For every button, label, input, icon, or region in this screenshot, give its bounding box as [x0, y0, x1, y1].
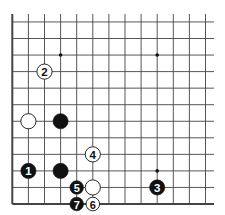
stone-disc	[21, 114, 36, 129]
white-stone-4: 4	[85, 147, 100, 162]
black-stone-5: 5	[70, 181, 84, 195]
black-stone	[53, 114, 68, 129]
stone-number-label: 1	[25, 165, 32, 177]
black-stone-1: 1	[21, 163, 36, 178]
stone-number-label: 6	[90, 199, 96, 211]
stone-number-label: 7	[74, 199, 80, 211]
stone-number-label: 4	[90, 149, 97, 161]
star-point	[59, 53, 63, 57]
black-stone-7: 7	[70, 197, 84, 211]
star-point	[155, 53, 159, 57]
black-stone-3: 3	[150, 180, 165, 195]
white-stone-2: 2	[37, 64, 52, 79]
white-stone	[21, 114, 36, 129]
stone-disc	[85, 180, 100, 195]
white-stone	[85, 180, 100, 195]
stone-number-label: 3	[154, 182, 160, 194]
black-stone	[53, 163, 68, 178]
white-stone-6: 6	[86, 197, 100, 211]
star-point	[155, 169, 159, 173]
stone-number-label: 2	[41, 66, 47, 78]
stone-disc	[53, 163, 68, 178]
go-board: 2415376	[0, 0, 225, 215]
stone-disc	[53, 114, 68, 129]
board-grid	[12, 14, 214, 204]
stone-number-label: 5	[74, 182, 80, 194]
